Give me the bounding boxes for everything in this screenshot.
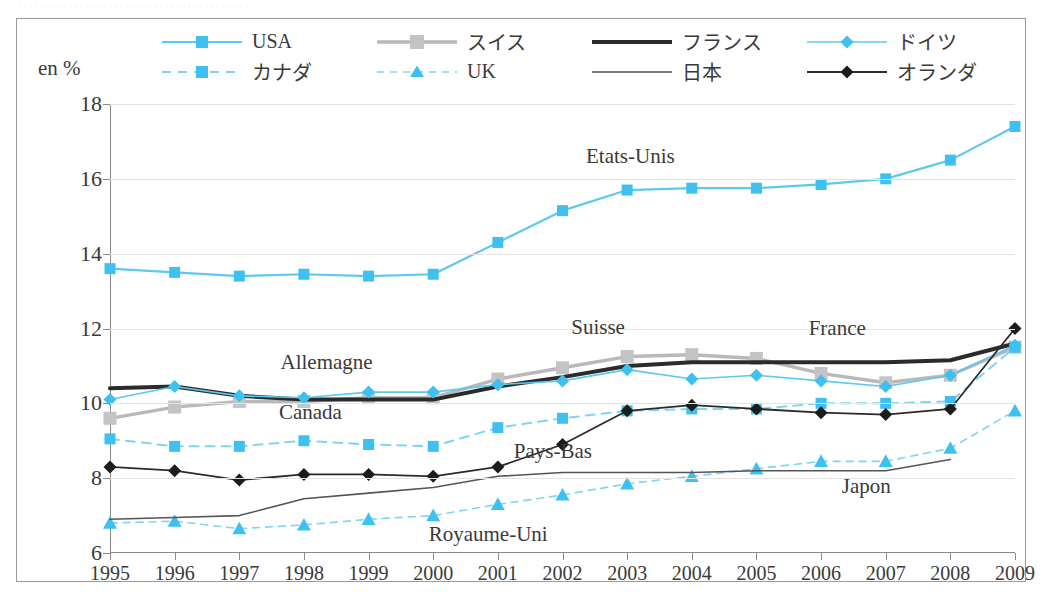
data-point — [945, 155, 956, 166]
x-axis-tick — [692, 553, 693, 560]
legend-item-label: UK — [467, 60, 496, 83]
x-axis-tick — [498, 553, 499, 560]
data-point — [168, 380, 181, 393]
paysbas-legend-key — [805, 62, 889, 80]
y-axis-tick — [103, 403, 110, 404]
suisse-legend-key — [375, 32, 459, 50]
x-axis-tick — [304, 553, 305, 560]
data-point — [234, 441, 245, 452]
annotation-japon: Japon — [842, 474, 891, 499]
data-point — [298, 269, 309, 280]
x-axis-tick — [369, 553, 370, 560]
data-point — [234, 271, 245, 282]
legend-item-label: オランダ — [897, 57, 977, 86]
x-axis-tick-label: 1999 — [349, 562, 389, 585]
annotation-allemagne: Allemagne — [280, 350, 372, 375]
data-point — [557, 413, 568, 424]
data-point — [492, 237, 503, 248]
y-gridline — [110, 329, 1015, 330]
x-axis-tick-label: 2007 — [866, 562, 906, 585]
x-axis-tick-label: 1997 — [219, 562, 259, 585]
x-axis-tick — [627, 553, 628, 560]
x-axis-tick — [1015, 553, 1016, 560]
y-axis-tick — [103, 478, 110, 479]
y-axis-tick-label: 8 — [91, 465, 102, 491]
annotation-canada: Canada — [279, 399, 342, 424]
y-axis-tick — [103, 553, 110, 554]
cutoff-header-text: ········································… — [12, 0, 1032, 12]
legend-item-日本[interactable]: 日本 — [590, 58, 805, 84]
data-point — [816, 179, 827, 190]
legend-item-カナダ[interactable]: カナダ — [160, 58, 375, 84]
legend-item-スイス[interactable]: スイス — [375, 28, 590, 54]
x-axis-tick-label: 1996 — [155, 562, 195, 585]
x-axis-tick-label: 2009 — [995, 562, 1035, 585]
data-point — [685, 348, 698, 361]
annotation-pays-bas: Pays-Bas — [514, 439, 592, 464]
data-point — [168, 464, 181, 477]
data-point — [169, 267, 180, 278]
legend-item-label: スイス — [467, 27, 526, 56]
y-axis-tick — [103, 104, 110, 105]
series-etats-unis — [105, 121, 1021, 282]
japon-legend-key — [590, 62, 674, 80]
y-axis-tick — [103, 179, 110, 180]
legend-item-label: ドイツ — [897, 27, 957, 56]
x-axis-tick — [886, 553, 887, 560]
y-axis-tick-label: 10 — [80, 390, 102, 416]
data-point — [1010, 342, 1021, 353]
x-axis-tick — [563, 553, 564, 560]
x-axis-tick — [950, 553, 951, 560]
annotation-etats-unis: Etats-Unis — [586, 143, 675, 168]
canada-legend-key — [160, 62, 244, 80]
series-japon — [110, 459, 950, 519]
data-point — [168, 514, 182, 527]
annotation-suisse: Suisse — [571, 314, 625, 339]
y-axis-unit-label: en % — [38, 56, 81, 81]
legend-row-2: カナダUK日本オランダ — [160, 58, 1020, 84]
y-axis-tick-label: 18 — [80, 91, 102, 117]
annotation-royaume-uni: Royaume-Uni — [429, 521, 548, 546]
legend-item-ドイツ[interactable]: ドイツ — [805, 28, 1020, 54]
x-axis-tick — [175, 553, 176, 560]
y-axis-tick-label: 12 — [80, 316, 102, 342]
x-axis-tick — [756, 553, 757, 560]
data-point — [105, 433, 116, 444]
legend-item-フランス[interactable]: フランス — [590, 28, 805, 54]
x-axis-tick-label: 2004 — [672, 562, 712, 585]
legend-item-オランダ[interactable]: オランダ — [805, 58, 1020, 84]
data-point — [105, 263, 116, 274]
data-point — [104, 412, 117, 425]
data-point — [492, 422, 503, 433]
data-point — [622, 185, 633, 196]
usa-legend-key — [160, 32, 244, 50]
y-gridline — [110, 254, 1015, 255]
france-legend-key — [590, 32, 674, 50]
legend-item-USA[interactable]: USA — [160, 28, 375, 54]
y-axis-tick — [103, 329, 110, 330]
y-axis-tick-label: 14 — [80, 241, 102, 267]
data-point — [557, 205, 568, 216]
annotation-france: France — [809, 315, 866, 340]
data-point — [879, 408, 892, 421]
legend-item-UK[interactable]: UK — [375, 58, 590, 84]
x-axis-tick-label: 2003 — [607, 562, 647, 585]
data-point — [428, 441, 439, 452]
x-axis-tick-label: 2008 — [930, 562, 970, 585]
data-point — [169, 441, 180, 452]
legend-item-label: USA — [252, 30, 292, 53]
x-axis-tick — [433, 553, 434, 560]
x-axis-tick-label: 2002 — [543, 562, 583, 585]
data-point — [1010, 121, 1021, 132]
data-point — [233, 474, 246, 487]
uk-legend-key — [375, 62, 459, 80]
x-axis-tick-label: 1995 — [90, 562, 130, 585]
data-point — [621, 350, 634, 363]
legend-item-label: カナダ — [252, 57, 312, 86]
data-point — [943, 441, 957, 454]
legend-item-label: 日本 — [682, 57, 722, 86]
x-axis-tick — [110, 553, 111, 560]
x-axis-tick-label: 1998 — [284, 562, 324, 585]
data-point — [750, 369, 763, 382]
x-axis-tick-label: 2001 — [478, 562, 518, 585]
